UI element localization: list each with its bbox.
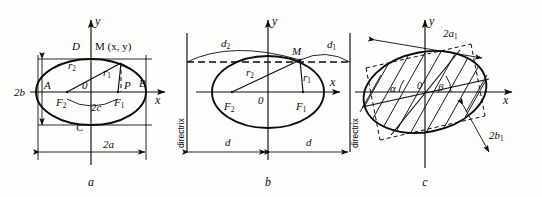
x-axis-label-a: x	[154, 93, 161, 107]
x-axis-label-b: x	[329, 75, 336, 89]
directrix-right-label-b: directrix	[350, 117, 360, 148]
vertex-c-label-a: C	[76, 121, 84, 133]
focus-f2-dot-b	[231, 91, 233, 93]
focus-f2-dot-a	[66, 91, 68, 93]
angle-beta-label-c: β	[437, 81, 444, 93]
dim-2b-label-a: 2b	[14, 86, 26, 98]
vertex-d-label-a: D	[71, 40, 80, 52]
dim-d-left-label-b: d	[225, 136, 231, 148]
point-m-dot-b	[299, 59, 302, 62]
caption-a: a	[88, 175, 94, 189]
origin-label-a: 0	[82, 79, 88, 91]
vertex-b-label-a: B	[139, 77, 146, 89]
focus-f1-dot-a	[117, 91, 119, 93]
focus-f1-dot-b	[302, 91, 304, 93]
focal-distance-label-a: 2c	[91, 101, 102, 113]
ellipse-figure-sheet: y x 0 M (x, y) D C A B F2 F1 r2 r1 P 2c …	[0, 0, 542, 197]
figure-canvas: y x 0 M (x, y) D C A B F2 F1 r2 r1 P 2c …	[0, 0, 542, 197]
origin-label-b: 0	[258, 94, 264, 106]
directrix-left-label-b: directrix	[176, 117, 186, 148]
vertex-a-label-a: A	[43, 79, 51, 91]
point-m-label-b: M	[291, 45, 302, 57]
dim-d-right-label-b: d	[306, 136, 312, 148]
caption-c: c	[422, 175, 428, 189]
y-axis-label-a: y	[94, 14, 101, 28]
angle-alpha-label-c: α	[390, 82, 396, 94]
y-axis-label-c: y	[428, 14, 435, 28]
dim-2a-label-a: 2a	[103, 138, 115, 150]
x-axis-label-c: x	[502, 93, 509, 107]
y-axis-label-b: y	[271, 14, 278, 28]
point-p-label-a: P	[123, 79, 131, 91]
point-m-label-a: M (x, y)	[95, 40, 132, 53]
caption-b: b	[265, 175, 271, 189]
origin-label-c: 0	[417, 80, 422, 91]
